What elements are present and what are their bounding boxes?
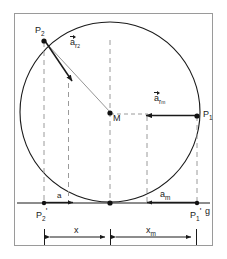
label-ar2-sub2: 2 xyxy=(77,44,80,49)
label-arc-am-sub: m xyxy=(165,194,170,201)
label-point-p1: P1 xyxy=(203,110,213,121)
vector-arrow-accent-icon xyxy=(154,92,158,93)
label-dim-x: x xyxy=(74,226,79,235)
point-dot-p2-prime xyxy=(42,201,46,205)
label-point-p2: P2 xyxy=(35,26,45,37)
label-point-p1-prime: P1' xyxy=(190,207,201,222)
point-dot-p1-prime xyxy=(195,201,199,205)
vector-arrow-accent-icon xyxy=(70,36,74,37)
label-arc-am: am xyxy=(160,190,170,201)
label-arc-a-base: a xyxy=(57,191,61,200)
label-point-p2-prime: P2' xyxy=(36,207,47,222)
label-arc-a: a xyxy=(57,192,61,200)
label-m-base: M xyxy=(113,113,121,123)
label-dim-xm-sub: m xyxy=(151,230,156,237)
label-p2-sub: 2 xyxy=(41,30,45,37)
label-dim-xm: xm xyxy=(146,226,156,237)
label-vector-arm: arm xyxy=(154,94,165,106)
label-p1-sub: 1 xyxy=(209,114,213,121)
label-arm-sub2: m xyxy=(161,100,165,105)
label-p2p-prime-mark: ' xyxy=(46,206,48,216)
vector-ar2-accent-wrap: a xyxy=(70,38,75,47)
point-dot-m xyxy=(107,110,112,115)
point-dot-tangent xyxy=(107,200,112,205)
figure-root: P2 ar2 arm P1 M a am P2' P1' g x xm xyxy=(0,0,227,259)
point-dot-p1 xyxy=(194,113,199,118)
label-baseline-g: g xyxy=(205,207,210,216)
label-g-base: g xyxy=(205,206,210,216)
label-p1p-prime-mark: ' xyxy=(200,206,202,216)
vector-arm-accent-wrap: a xyxy=(154,94,159,103)
label-dim-x-base: x xyxy=(74,225,79,235)
point-dot-p2 xyxy=(41,38,46,43)
label-center-m: M xyxy=(113,114,121,123)
label-vector-ar2: ar2 xyxy=(70,38,80,50)
